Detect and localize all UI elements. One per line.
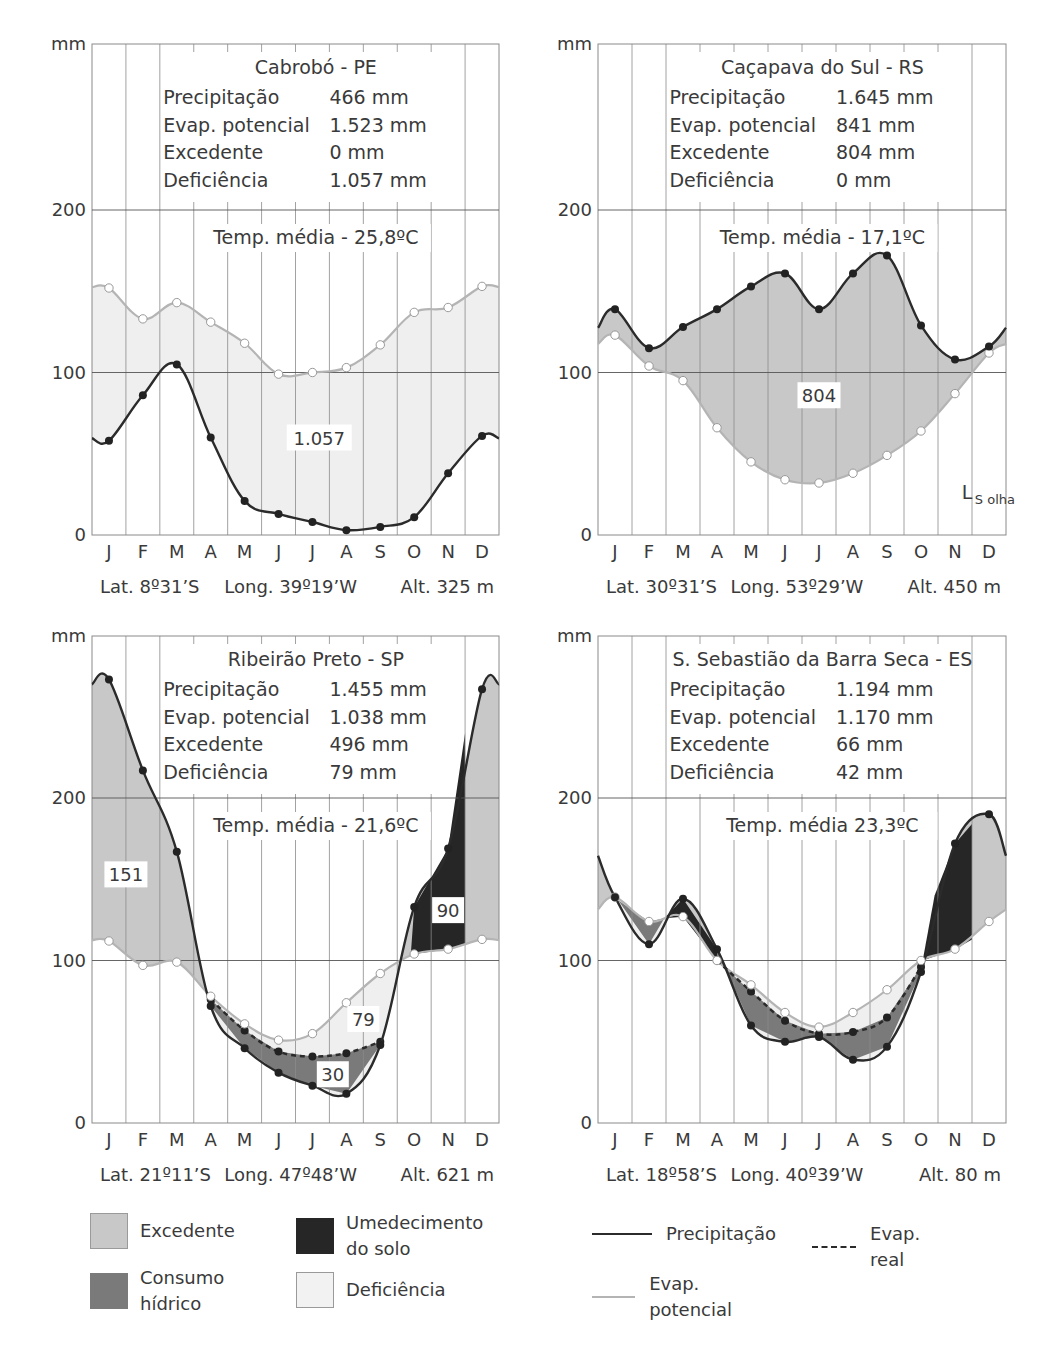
evap-potencial-point — [611, 331, 619, 339]
precipitacao-point — [173, 360, 181, 368]
month-label: J — [781, 541, 787, 562]
evap-potencial-point — [883, 986, 891, 994]
precipitacao-point — [713, 945, 721, 953]
stat-label: Deficiência — [669, 761, 774, 783]
stat-label: Precipitação — [669, 678, 785, 700]
month-label: O — [914, 1129, 928, 1150]
precipitacao-point — [645, 344, 653, 352]
precipitacao-point — [308, 518, 316, 526]
evap-potencial-point — [274, 1036, 282, 1044]
longitude: Long. 40º39’W — [731, 1164, 864, 1185]
evap-potencial-point — [342, 363, 350, 371]
y-tick-label: 200 — [52, 199, 86, 220]
evap-potencial-point — [139, 961, 147, 969]
precipitacao-point — [747, 1022, 755, 1030]
month-label: J — [309, 1129, 315, 1150]
legend-umedecimento: Umedecimento do solo — [296, 1210, 516, 1262]
y-unit-label: mm — [557, 33, 592, 54]
evap-real-point — [275, 1048, 283, 1056]
stat-value: 0 mm — [836, 169, 891, 191]
precipitacao-point — [849, 269, 857, 277]
evap-potencial-point — [951, 945, 959, 953]
precipitacao-point — [611, 893, 619, 901]
stat-label: Evap. potencial — [163, 114, 310, 136]
month-label: A — [711, 1129, 724, 1150]
evap-potencial-point — [376, 969, 384, 977]
month-label: F — [138, 1129, 148, 1150]
legend-label: Evap. potencial — [649, 1271, 749, 1323]
altitude: Alt. 325 m — [401, 576, 494, 597]
latitude: Lat. 30º31’S — [606, 576, 717, 597]
precipitacao-point — [917, 321, 925, 329]
evap-potencial-point — [849, 469, 857, 477]
y-tick-label: 100 — [558, 950, 592, 971]
precipitacao-point — [645, 940, 653, 948]
evap-potencial-point — [173, 298, 181, 306]
month-label: J — [275, 541, 281, 562]
evap-potencial-point — [815, 479, 823, 487]
month-label: A — [340, 541, 353, 562]
evap-potencial-point — [478, 935, 486, 943]
stat-value: 1.194 mm — [836, 678, 933, 700]
evap-potencial-point — [679, 912, 687, 920]
precipitacao-point — [139, 391, 147, 399]
latitude: Lat. 8º31’S — [100, 576, 200, 597]
evap-potencial-point — [308, 1029, 316, 1037]
y-tick-label: 0 — [75, 1112, 86, 1133]
annotation-sub: S olha — [975, 492, 1015, 507]
evap-potencial-point — [747, 981, 755, 989]
evap-potencial-point — [207, 992, 215, 1000]
stat-label: Deficiência — [163, 169, 268, 191]
evap-potencial-point — [781, 476, 789, 484]
stat-label: Excedente — [669, 141, 769, 163]
precipitacao-point — [478, 432, 486, 440]
precipitacao-point — [611, 305, 619, 313]
annotation-value: 90 — [437, 900, 460, 921]
month-label: S — [375, 1129, 386, 1150]
stat-label: Evap. potencial — [669, 114, 816, 136]
station-title: Ribeirão Preto - SP — [228, 648, 404, 670]
stat-value: 0 mm — [329, 141, 384, 163]
month-label: N — [441, 1129, 454, 1150]
precipitacao-point — [444, 469, 452, 477]
stat-value: 1.038 mm — [329, 706, 426, 728]
month-label: M — [743, 1129, 759, 1150]
precipitacao-point — [917, 968, 925, 976]
annotation-value: 151 — [109, 864, 143, 885]
mean-temperature: Temp. média - 25,8ºC — [212, 226, 418, 248]
light-line-sample — [592, 1296, 635, 1298]
dashed-line-sample — [812, 1246, 856, 1248]
evap-potencial-point — [240, 339, 248, 347]
month-label: F — [644, 541, 654, 562]
stat-label: Deficiência — [669, 169, 774, 191]
precipitacao-point — [207, 434, 215, 442]
precipitacao-point — [781, 1038, 789, 1046]
annotation-value: 30 — [321, 1064, 344, 1085]
precipitacao-point — [815, 1033, 823, 1041]
precipitacao-point — [275, 1069, 283, 1077]
month-label: N — [948, 541, 961, 562]
month-label: A — [205, 1129, 218, 1150]
y-unit-label: mm — [51, 625, 86, 646]
precipitacao-point — [747, 282, 755, 290]
y-tick-label: 100 — [52, 950, 86, 971]
month-label: D — [475, 541, 489, 562]
evap-real-point — [781, 1017, 789, 1025]
month-label: N — [441, 541, 454, 562]
stat-label: Precipitação — [163, 678, 279, 700]
legend-label: Consumo hídrico — [140, 1265, 240, 1317]
y-tick-label: 100 — [558, 362, 592, 383]
precipitacao-point — [849, 1056, 857, 1064]
evap-real-point — [342, 1049, 350, 1057]
stat-value: 466 mm — [329, 86, 408, 108]
stat-label: Precipitação — [163, 86, 279, 108]
legend-deficiencia: Deficiência — [296, 1272, 446, 1308]
month-label: J — [815, 541, 821, 562]
station-title: Caçapava do Sul - RS — [721, 56, 924, 78]
evap-potencial-point — [849, 1008, 857, 1016]
evap-potencial-point — [342, 999, 350, 1007]
month-label: O — [407, 1129, 421, 1150]
longitude: Long. 53º29’W — [731, 576, 864, 597]
stat-value: 1.523 mm — [329, 114, 426, 136]
evap-potencial-point — [207, 318, 215, 326]
